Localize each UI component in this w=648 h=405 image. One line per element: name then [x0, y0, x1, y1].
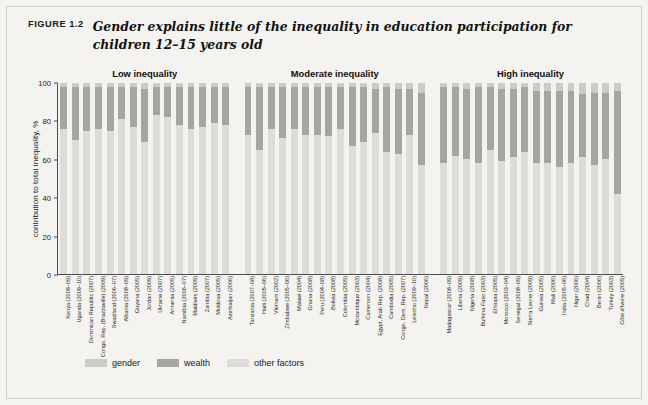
stacked-bar[interactable]	[418, 83, 425, 274]
bar-slot[interactable]	[381, 83, 393, 274]
stacked-bar[interactable]	[118, 83, 125, 274]
bar-slot[interactable]	[93, 83, 105, 274]
bar-slot[interactable]	[450, 83, 462, 274]
stacked-bar[interactable]	[349, 83, 356, 274]
stacked-bar[interactable]	[568, 83, 575, 274]
stacked-bar[interactable]	[556, 83, 563, 274]
bar-slot[interactable]	[531, 83, 543, 274]
bar-slot[interactable]	[323, 83, 335, 274]
bar-segment-other-factors	[60, 129, 67, 274]
stacked-bar[interactable]	[314, 83, 321, 274]
stacked-bar[interactable]	[533, 83, 540, 274]
bar-slot[interactable]	[438, 83, 450, 274]
stacked-bar[interactable]	[130, 83, 137, 274]
stacked-bar[interactable]	[72, 83, 79, 274]
stacked-bar[interactable]	[95, 83, 102, 274]
bar-slot[interactable]	[416, 83, 428, 274]
stacked-bar[interactable]	[360, 83, 367, 274]
bar-slot[interactable]	[507, 83, 519, 274]
stacked-bar[interactable]	[337, 83, 344, 274]
bar-slot[interactable]	[300, 83, 312, 274]
bar-slot[interactable]	[461, 83, 473, 274]
stacked-bar[interactable]	[383, 83, 390, 274]
stacked-bar[interactable]	[256, 83, 263, 274]
stacked-bar[interactable]	[199, 83, 206, 274]
stacked-bar[interactable]	[176, 83, 183, 274]
stacked-bar[interactable]	[591, 83, 598, 274]
bar-slot[interactable]	[174, 83, 186, 274]
stacked-bar[interactable]	[222, 83, 229, 274]
bar-slot[interactable]	[162, 83, 174, 274]
stacked-bar[interactable]	[291, 83, 298, 274]
stacked-bar[interactable]	[268, 83, 275, 274]
stacked-bar[interactable]	[487, 83, 494, 274]
bar-slot[interactable]	[346, 83, 358, 274]
bar-slot[interactable]	[600, 83, 612, 274]
bar-slot[interactable]	[519, 83, 531, 274]
bar-slot[interactable]	[312, 83, 324, 274]
stacked-bar[interactable]	[107, 83, 114, 274]
bar-segment-wealth	[325, 87, 332, 137]
stacked-bar[interactable]	[544, 83, 551, 274]
stacked-bar[interactable]	[614, 83, 621, 274]
bar-slot[interactable]	[58, 83, 70, 274]
bar-slot[interactable]	[254, 83, 266, 274]
legend-swatch-other-factors	[227, 359, 249, 367]
stacked-bar[interactable]	[602, 83, 609, 274]
x-axis-label: Uganda (2009–10)	[76, 276, 82, 322]
bar-slot[interactable]	[565, 83, 577, 274]
bar-slot[interactable]	[70, 83, 82, 274]
stacked-bar[interactable]	[211, 83, 218, 274]
stacked-bar[interactable]	[141, 83, 148, 274]
stacked-bar[interactable]	[60, 83, 67, 274]
bar-slot[interactable]	[577, 83, 589, 274]
stacked-bar[interactable]	[83, 83, 90, 274]
bar-slot[interactable]	[404, 83, 416, 274]
stacked-bar[interactable]	[395, 83, 402, 274]
stacked-bar[interactable]	[452, 83, 459, 274]
bar-slot[interactable]	[542, 83, 554, 274]
stacked-bar[interactable]	[302, 83, 309, 274]
bar-slot[interactable]	[265, 83, 277, 274]
bar-segment-wealth	[487, 87, 494, 150]
bar-slot[interactable]	[116, 83, 128, 274]
bar-slot[interactable]	[288, 83, 300, 274]
bar-slot[interactable]	[127, 83, 139, 274]
stacked-bar[interactable]	[372, 83, 379, 274]
bar-slot[interactable]	[151, 83, 163, 274]
bar-slot[interactable]	[369, 83, 381, 274]
stacked-bar[interactable]	[279, 83, 286, 274]
stacked-bar[interactable]	[510, 83, 517, 274]
bar-slot[interactable]	[104, 83, 116, 274]
bar-slot[interactable]	[277, 83, 289, 274]
bar-slot[interactable]	[185, 83, 197, 274]
bar-slot[interactable]	[139, 83, 151, 274]
bar-slot[interactable]	[393, 83, 405, 274]
stacked-bar[interactable]	[406, 83, 413, 274]
stacked-bar[interactable]	[153, 83, 160, 274]
bar-slot[interactable]	[473, 83, 485, 274]
bar-slot[interactable]	[81, 83, 93, 274]
stacked-bar[interactable]	[521, 83, 528, 274]
bar-slot[interactable]	[588, 83, 600, 274]
bar-slot[interactable]	[358, 83, 370, 274]
stacked-bar[interactable]	[440, 83, 447, 274]
bar-segment-wealth	[83, 87, 90, 131]
stacked-bar[interactable]	[475, 83, 482, 274]
stacked-bar[interactable]	[164, 83, 171, 274]
stacked-bar[interactable]	[188, 83, 195, 274]
stacked-bar[interactable]	[498, 83, 505, 274]
bar-slot[interactable]	[242, 83, 254, 274]
bar-slot[interactable]	[496, 83, 508, 274]
bar-slot[interactable]	[484, 83, 496, 274]
stacked-bar[interactable]	[245, 83, 252, 274]
bar-slot[interactable]	[554, 83, 566, 274]
bar-slot[interactable]	[611, 83, 623, 274]
stacked-bar[interactable]	[463, 83, 470, 274]
bar-slot[interactable]	[220, 83, 232, 274]
stacked-bar[interactable]	[325, 83, 332, 274]
stacked-bar[interactable]	[579, 83, 586, 274]
bar-slot[interactable]	[197, 83, 209, 274]
bar-slot[interactable]	[335, 83, 347, 274]
bar-slot[interactable]	[208, 83, 220, 274]
